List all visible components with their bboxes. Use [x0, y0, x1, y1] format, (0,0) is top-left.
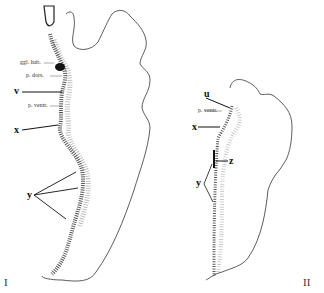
label-u: u [204, 88, 210, 99]
label-y-ii: y [196, 177, 201, 188]
figure-ii-tissue-band [214, 106, 232, 276]
label-p-dors: p. dors. [26, 72, 44, 78]
label-y: y [27, 189, 32, 200]
figure-i-outline [42, 10, 150, 281]
figure-numeral-i: I [4, 276, 8, 288]
label-p-ventr-ii: p. ventr. [198, 107, 218, 113]
anatomical-drawing [0, 0, 324, 293]
label-ggl-hab: ggl. hab. [20, 59, 41, 65]
label-z: z [229, 155, 233, 166]
label-x: x [14, 124, 19, 135]
label-v: v [14, 85, 19, 96]
figure-ii-outline [206, 80, 292, 280]
label-p-ventr: p. ventr. [28, 102, 48, 108]
label-x-ii: x [192, 121, 197, 132]
figure-numeral-ii: II [303, 276, 310, 288]
figure-i-tissue-band [50, 34, 83, 274]
